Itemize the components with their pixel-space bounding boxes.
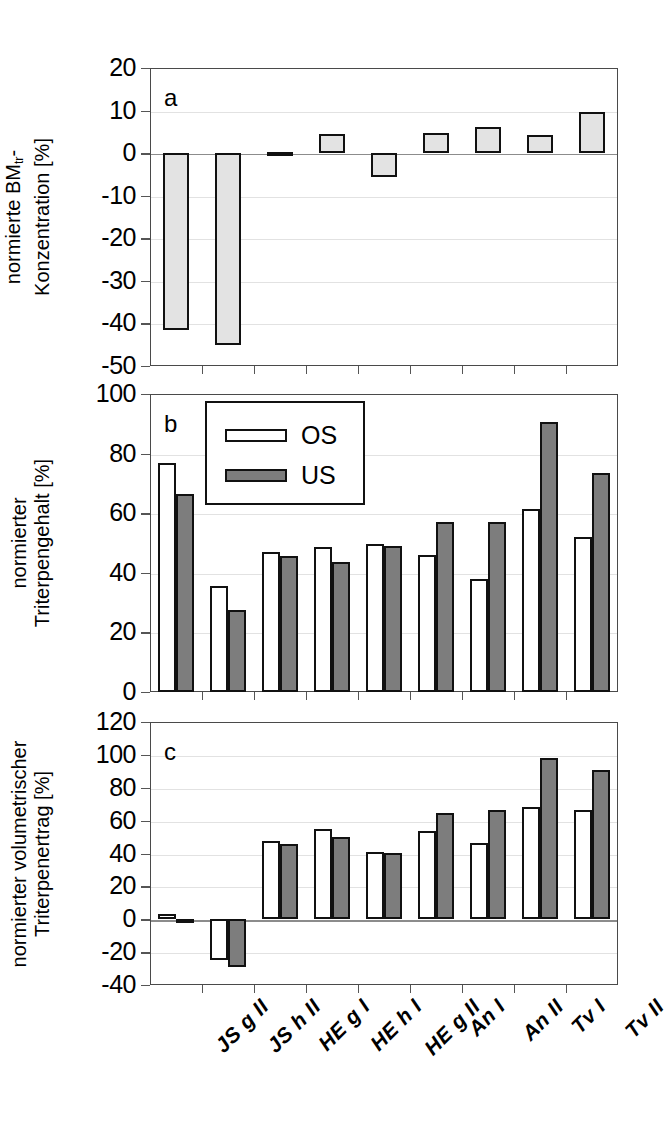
y-tick-c--20: [141, 952, 150, 953]
x-tick-c-1: [202, 985, 203, 993]
x-tick-c-4: [358, 985, 359, 993]
y-axis-title-line1-c: normierter volumetrischer: [8, 740, 30, 967]
bar-c-os-Tv-II: [574, 810, 592, 919]
x-tick-c-3: [306, 985, 307, 993]
bar-c-os-JS-g-II: [158, 914, 176, 919]
y-axis-title-line2-c: Triterpenertrag [%]: [31, 722, 54, 985]
panel-letter-c: c: [164, 740, 176, 764]
legend-entry-us[interactable]: US: [225, 463, 336, 488]
bar-c-us-HE-h-I: [332, 837, 350, 919]
bar-c-us-An-II: [488, 810, 506, 919]
y-axis-title-c: normierter volumetrischerTriterpenertrag…: [8, 722, 54, 985]
legend-entry-os[interactable]: OS: [225, 423, 337, 448]
bar-c-us-An-I: [436, 813, 454, 919]
bar-c-us-Tv-II: [592, 770, 610, 919]
gridline-c-100: [151, 756, 617, 757]
y-tick-c-0: [141, 919, 150, 920]
y-tick-c-100: [141, 755, 150, 756]
legend-label-us: US: [301, 463, 336, 488]
x-tick-c-7: [514, 985, 515, 993]
bar-c-os-HE-g-I: [262, 841, 280, 919]
x-tick-c-2: [254, 985, 255, 993]
x-tick-c-8: [566, 985, 567, 993]
y-tick-c-120: [141, 722, 150, 723]
y-tick-c-20: [141, 886, 150, 887]
bar-c-us-JS-g-II: [176, 919, 194, 923]
x-tick-c-5: [410, 985, 411, 993]
y-tick-c-60: [141, 821, 150, 822]
bar-c-os-An-II: [470, 843, 488, 919]
y-tick-c--40: [141, 985, 150, 986]
bar-c-os-Tv-I: [522, 807, 540, 920]
legend-swatch-os: [225, 429, 287, 442]
bar-c-os-HE-g-II: [366, 852, 384, 919]
y-tick-c-80: [141, 788, 150, 789]
y-tick-c-40: [141, 854, 150, 855]
bar-c-os-JS-h-II: [210, 919, 228, 960]
bar-c-us-HE-g-II: [384, 853, 402, 920]
bar-c-us-JS-h-II: [228, 919, 246, 967]
legend-swatch-us: [225, 469, 287, 482]
x-tick-c-6: [462, 985, 463, 993]
bar-c-us-HE-g-I: [280, 844, 298, 919]
legend-box: [205, 401, 365, 505]
bar-c-os-An-I: [418, 831, 436, 919]
bar-c-os-HE-h-I: [314, 829, 332, 919]
legend-label-os: OS: [301, 423, 337, 448]
bar-c-us-Tv-I: [540, 758, 558, 919]
